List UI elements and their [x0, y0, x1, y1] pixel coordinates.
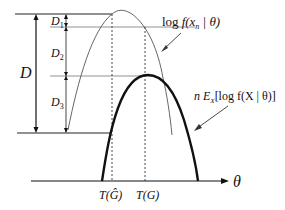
d-arrow-head-top: [34, 14, 39, 20]
expected-log-likelihood-curve: [102, 75, 198, 181]
label-d2: D2: [50, 46, 64, 62]
label-t-hat-g: T(Ĝ): [99, 188, 122, 202]
label-d: D: [19, 64, 32, 81]
label-theta: θ: [233, 173, 241, 190]
label-expected-log-likelihood: n EX[log f(X | θ)]: [194, 89, 276, 105]
d3-arrow-head-top: [64, 76, 68, 80]
d1-arrow-head-top: [64, 14, 68, 19]
d1-arrow-head-bottom: [64, 23, 68, 27]
d3-arrow-head-bottom: [64, 128, 68, 133]
bias-diagram: D D1 D2 D3 θ T(Ĝ) T(G) logf(xn | θ) n EX…: [0, 0, 285, 210]
label-t-g: T(G): [136, 188, 159, 202]
label-d1: D1: [50, 14, 64, 30]
label-d3: D3: [50, 95, 64, 111]
label-log-likelihood: logf(xn | θ): [162, 14, 220, 31]
d2-arrow-head-top: [64, 27, 68, 31]
theta-axis-arrow-head: [221, 178, 229, 184]
d-arrow-head-bottom: [34, 127, 39, 133]
log-likelihood-curve: [68, 10, 172, 135]
d2-arrow-head-bottom: [64, 72, 68, 76]
expected-log-likelihood-pointer: [196, 106, 228, 129]
